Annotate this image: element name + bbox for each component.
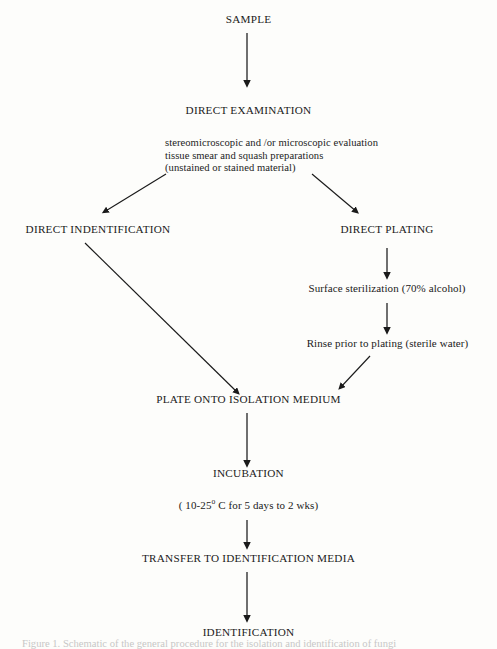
examination-detail-line-3: (unstained or stained material) bbox=[165, 162, 378, 175]
node-direct-identification: DIRECT INDENTIFICATION bbox=[8, 224, 188, 236]
arrow-examination-to-plating bbox=[312, 174, 357, 212]
node-transfer-to-identification-media: TRANSFER TO IDENTIFICATION MEDIA bbox=[0, 553, 497, 565]
flowchart-diagram: SAMPLE DIRECT EXAMINATION stereomicrosco… bbox=[0, 0, 497, 649]
node-incubation: INCUBATION bbox=[0, 468, 497, 480]
arrow-rinse-to-plate bbox=[340, 356, 370, 388]
node-identification: IDENTIFICATION bbox=[0, 627, 497, 639]
examination-detail-line-1: stereomicroscopic and /or microscopic ev… bbox=[165, 137, 378, 150]
figure-caption-clipped: Figure 1. Schematic of the general proce… bbox=[0, 638, 497, 649]
figure-caption-text: Figure 1. Schematic of the general proce… bbox=[22, 638, 396, 649]
node-direct-plating: DIRECT PLATING bbox=[317, 224, 457, 236]
arrow-identification-to-plate bbox=[85, 243, 238, 393]
incubation-detail-prefix: ( 10-25 bbox=[179, 499, 212, 511]
incubation-detail-suffix: C for 5 days to 2 wks) bbox=[215, 499, 318, 511]
node-plate-onto-isolation-medium: PLATE ONTO ISOLATION MEDIUM bbox=[0, 394, 497, 406]
node-direct-examination: DIRECT EXAMINATION bbox=[0, 105, 497, 117]
node-rinse-prior-to-plating: Rinse prior to plating (sterile water) bbox=[285, 338, 490, 350]
node-incubation-detail: ( 10-25o C for 5 days to 2 wks) bbox=[0, 500, 497, 512]
examination-detail-line-2: tissue smear and squash preparations bbox=[165, 150, 378, 163]
node-sample: SAMPLE bbox=[0, 14, 497, 26]
node-surface-sterilization: Surface sterilization (70% alcohol) bbox=[287, 283, 487, 295]
examination-details: stereomicroscopic and /or microscopic ev… bbox=[165, 137, 378, 175]
arrow-examination-to-identification bbox=[104, 174, 166, 212]
